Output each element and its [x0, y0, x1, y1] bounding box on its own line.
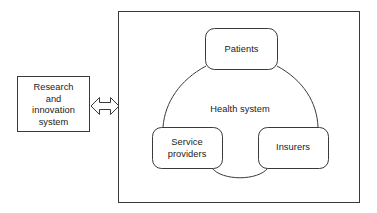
double-headed-arrow-icon: [91, 98, 119, 115]
diagram-vector-layer: [0, 0, 377, 213]
diagram-canvas: Research and innovation system Patients …: [0, 0, 377, 213]
research-and-innovation-system-box: [18, 77, 90, 132]
node-service-providers[interactable]: [153, 128, 223, 169]
node-insurers[interactable]: [259, 128, 329, 169]
node-patients[interactable]: [206, 29, 278, 70]
